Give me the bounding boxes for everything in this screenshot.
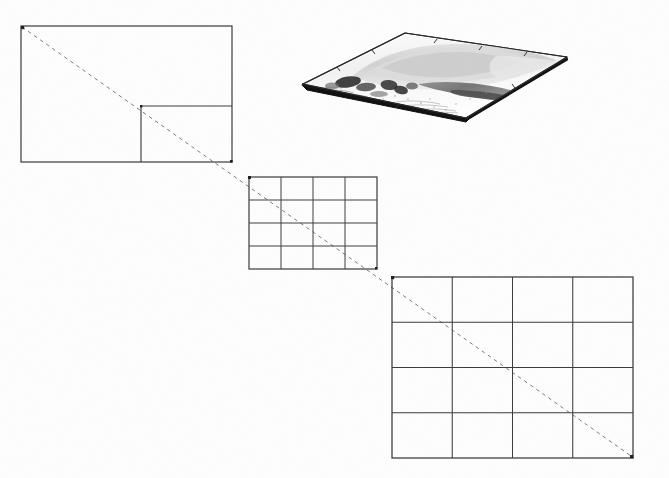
diagram-svg [0,0,669,478]
figure-canvas: Nested multi-resolution grid cascade wit… [0,0,669,478]
scan-grain-overlay [0,0,669,478]
